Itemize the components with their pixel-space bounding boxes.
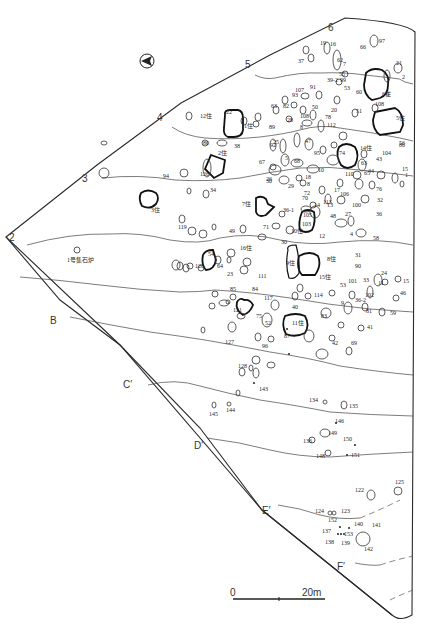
svg-text:5: 5 <box>285 155 288 161</box>
svg-text:103: 103 <box>302 221 311 227</box>
svg-text:9: 9 <box>341 300 344 306</box>
svg-text:87: 87 <box>284 333 290 339</box>
svg-text:106: 106 <box>340 191 349 197</box>
svg-text:65: 65 <box>364 170 370 176</box>
svg-text:53: 53 <box>340 282 346 288</box>
svg-text:142: 142 <box>364 546 373 552</box>
svg-text:24: 24 <box>381 270 387 276</box>
svg-text:15住: 15住 <box>319 273 331 280</box>
svg-text:82: 82 <box>283 103 289 109</box>
svg-text:46: 46 <box>400 290 406 296</box>
svg-text:2住: 2住 <box>218 149 227 156</box>
svg-text:10住: 10住 <box>291 227 303 234</box>
svg-text:42: 42 <box>332 340 338 346</box>
svg-text:6: 6 <box>328 22 334 33</box>
svg-text:18: 18 <box>305 174 311 180</box>
svg-text:1: 1 <box>405 172 408 178</box>
svg-text:B: B <box>50 315 57 326</box>
svg-text:114: 114 <box>314 292 323 298</box>
svg-text:120: 120 <box>195 263 204 269</box>
svg-text:89: 89 <box>269 124 275 130</box>
svg-text:81: 81 <box>366 308 372 314</box>
svg-text:1住: 1住 <box>244 122 253 129</box>
svg-text:6: 6 <box>386 91 389 97</box>
svg-text:101: 101 <box>348 278 357 284</box>
svg-text:48: 48 <box>330 213 336 219</box>
svg-text:72: 72 <box>304 190 310 196</box>
svg-text:50: 50 <box>312 104 318 110</box>
svg-text:28: 28 <box>287 117 293 123</box>
svg-text:20: 20 <box>331 107 337 113</box>
svg-text:74: 74 <box>339 150 345 156</box>
svg-text:86: 86 <box>399 142 405 148</box>
svg-text:67: 67 <box>259 159 265 165</box>
svg-text:10: 10 <box>318 167 324 173</box>
svg-text:40: 40 <box>292 304 298 310</box>
svg-text:124: 124 <box>315 508 324 514</box>
svg-text:34: 34 <box>210 187 216 193</box>
svg-text:30: 30 <box>281 239 287 245</box>
svg-text:4: 4 <box>157 112 163 123</box>
svg-text:9住: 9住 <box>286 259 295 266</box>
svg-text:8: 8 <box>300 124 303 130</box>
north-arrow-icon <box>140 54 154 68</box>
svg-text:14住: 14住 <box>360 144 372 151</box>
svg-text:5: 5 <box>245 59 251 70</box>
svg-text:90: 90 <box>355 263 361 269</box>
svg-text:62: 62 <box>337 57 343 63</box>
svg-text:137: 137 <box>322 528 331 534</box>
svg-text:143: 143 <box>259 386 268 392</box>
svg-text:80: 80 <box>203 140 209 146</box>
svg-text:144: 144 <box>226 407 235 413</box>
svg-text:92: 92 <box>270 142 276 148</box>
site-plan-map: 2 3 4 5 6 B C′ D′ E′ F′ 0 20m 1号集石炉 <box>0 0 429 629</box>
svg-text:153: 153 <box>344 531 353 537</box>
svg-text:97: 97 <box>379 38 385 44</box>
svg-text:127: 127 <box>225 339 234 345</box>
svg-text:138: 138 <box>325 539 334 545</box>
svg-text:21: 21 <box>396 60 402 66</box>
svg-text:37: 37 <box>298 58 304 64</box>
svg-text:54: 54 <box>208 251 214 257</box>
svg-text:1号集石炉: 1号集石炉 <box>67 256 94 264</box>
site-boundary-lower-edge <box>6 237 392 615</box>
svg-text:19: 19 <box>320 40 326 46</box>
svg-text:31: 31 <box>355 252 361 258</box>
svg-text:3: 3 <box>82 173 88 184</box>
svg-text:100: 100 <box>352 202 361 208</box>
svg-text:5住: 5住 <box>396 114 405 121</box>
svg-text:113: 113 <box>323 199 332 205</box>
svg-text:119: 119 <box>178 224 187 230</box>
svg-text:125: 125 <box>395 479 404 485</box>
svg-text:2: 2 <box>402 74 405 80</box>
svg-text:E′: E′ <box>262 505 271 516</box>
point-finds <box>253 328 356 535</box>
svg-text:43: 43 <box>376 156 382 162</box>
svg-text:49: 49 <box>229 228 235 234</box>
svg-text:121: 121 <box>233 307 242 313</box>
svg-text:84: 84 <box>252 286 258 292</box>
svg-text:128: 128 <box>238 363 247 369</box>
svg-text:117: 117 <box>264 295 273 301</box>
svg-text:0: 0 <box>230 587 236 598</box>
svg-text:8住: 8住 <box>327 255 336 262</box>
svg-text:76: 76 <box>376 186 382 192</box>
svg-text:8: 8 <box>307 181 310 187</box>
svg-text:71: 71 <box>263 224 269 230</box>
svg-text:146: 146 <box>335 418 344 424</box>
svg-text:58: 58 <box>373 235 379 241</box>
svg-text:63: 63 <box>361 160 367 166</box>
svg-text:27: 27 <box>345 211 351 217</box>
svg-text:122: 122 <box>355 487 364 493</box>
svg-text:95: 95 <box>314 150 320 156</box>
grid-labels-alpha: B C′ D′ E′ F′ <box>50 315 345 572</box>
svg-text:149: 149 <box>328 430 337 436</box>
svg-text:140: 140 <box>354 521 363 527</box>
svg-text:11住: 11住 <box>292 319 304 326</box>
svg-text:38: 38 <box>234 143 240 149</box>
svg-text:16住: 16住 <box>240 244 252 251</box>
svg-text:94: 94 <box>163 173 169 179</box>
svg-text:60: 60 <box>356 89 362 95</box>
svg-text:68: 68 <box>294 158 300 164</box>
svg-text:134: 134 <box>309 397 318 403</box>
